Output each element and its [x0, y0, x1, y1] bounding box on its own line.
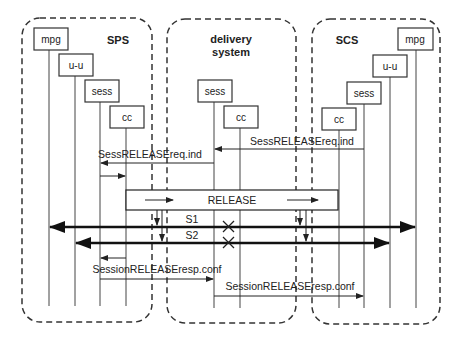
message-session-release-resp-conf-delivery-to-scs: SessionRELEASEresp.conf: [214, 280, 363, 296]
svg-text:mpg: mpg: [405, 34, 424, 45]
entity-sps-mpg: mpg: [34, 28, 68, 50]
message-session-release-resp-conf-sps-to-delivery: SessionRELEASEresp.conf: [93, 263, 222, 279]
container-delivery-system: delivery system: [167, 19, 296, 323]
release-down-arrows: [157, 210, 306, 241]
svg-text:mpg: mpg: [41, 34, 60, 45]
stream-s1: S1: [50, 213, 415, 232]
entity-scs-mpg: mpg: [398, 28, 433, 50]
sequence-diagram: SPS delivery system SCS mpg u-u sess cc: [0, 0, 461, 339]
svg-text:sess: sess: [205, 86, 226, 97]
svg-text:SessionRELEASEresp.conf: SessionRELEASEresp.conf: [93, 263, 222, 275]
svg-text:sess: sess: [354, 88, 375, 99]
entity-sps-sess: sess: [85, 80, 119, 102]
svg-text:cc: cc: [334, 114, 344, 125]
svg-text:cc: cc: [236, 112, 246, 123]
container-title-delivery-line1: delivery: [210, 33, 252, 45]
svg-text:SessRELEASEreq.ind: SessRELEASEreq.ind: [250, 135, 354, 147]
s1-label: S1: [186, 213, 199, 225]
entity-scs-sess: sess: [347, 82, 381, 104]
release-box: RELEASE: [126, 190, 338, 210]
entity-sps-uu: u-u: [59, 54, 93, 76]
svg-text:SessRELEASEreq.ind: SessRELEASEreq.ind: [98, 148, 202, 160]
svg-text:cc: cc: [122, 112, 132, 123]
svg-text:u-u: u-u: [69, 60, 83, 71]
container-title-scs: SCS: [336, 34, 359, 46]
s2-label: S2: [186, 229, 199, 241]
message-sess-release-req-ind-delivery-to-sps: SessRELEASEreq.ind: [98, 148, 214, 163]
container-title-delivery-line2: system: [212, 46, 250, 58]
release-label: RELEASE: [208, 194, 256, 206]
message-sess-release-req-ind-scs-to-delivery: SessRELEASEreq.ind: [215, 135, 364, 149]
entity-sps-cc: cc: [110, 106, 144, 128]
svg-text:SessionRELEASEresp.conf: SessionRELEASEresp.conf: [226, 280, 355, 292]
container-title-sps: SPS: [107, 34, 129, 46]
entity-scs-cc: cc: [322, 108, 356, 130]
entity-delivery-sess: sess: [198, 80, 232, 102]
svg-text:u-u: u-u: [383, 61, 397, 72]
svg-text:sess: sess: [92, 86, 113, 97]
entity-delivery-cc: cc: [224, 106, 258, 128]
stream-s2: S2: [76, 229, 389, 248]
entity-scs-uu: u-u: [373, 55, 407, 77]
